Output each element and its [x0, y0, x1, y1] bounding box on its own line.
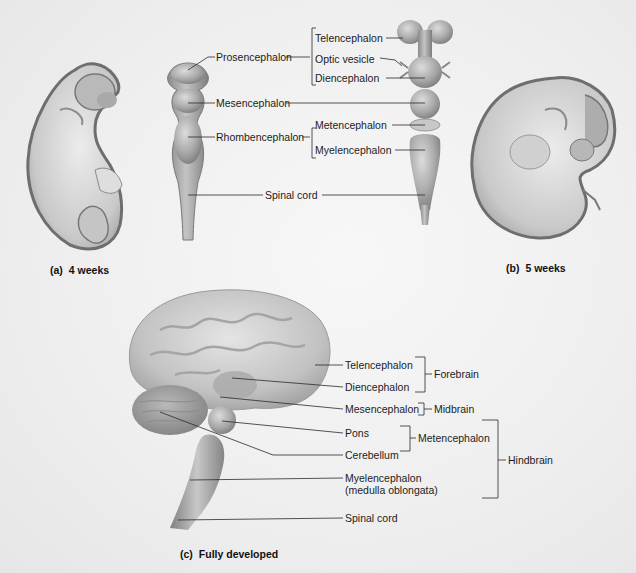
label-diencephalon-5wk: Diencephalon [315, 72, 379, 84]
label-medulla-oblongata: (medulla oblongata) [345, 484, 438, 496]
label-spinal-cord-embryo: Spinal cord [265, 189, 318, 201]
caption-c: (c)Fully developed [180, 548, 278, 560]
label-telencephalon-adult: Telencephalon [345, 359, 413, 371]
embryo-4-weeks [28, 64, 122, 249]
neural-tube-5-weeks [397, 20, 453, 225]
neural-tube-4-weeks [168, 63, 209, 240]
illustration-layer [0, 0, 636, 573]
label-optic-vesicle: Optic vesicle [315, 53, 375, 65]
group-forebrain: Forebrain [434, 368, 479, 380]
label-metencephalon-5wk: Metencephalon [315, 119, 387, 131]
caption-a: (a)4 weeks [50, 264, 109, 276]
label-mesencephalon-4wk: Mesencephalon [216, 97, 290, 109]
label-myelencephalon-5wk: Myelencephalon [315, 144, 391, 156]
label-spinal-cord-adult: Spinal cord [345, 512, 398, 524]
group-metencephalon: Metencephalon [418, 432, 490, 444]
label-myelencephalon-adult: Myelencephalon [345, 472, 421, 484]
label-prosencephalon: Prosencephalon [216, 51, 292, 63]
label-pons: Pons [345, 427, 369, 439]
embryo-5-weeks [472, 78, 615, 238]
caption-b: (b)5 weeks [506, 262, 566, 274]
label-rhombencephalon: Rhombencephalon [216, 131, 304, 143]
label-mesencephalon-adult: Mesencephalon [345, 403, 419, 415]
group-hindbrain: Hindbrain [508, 454, 553, 466]
label-diencephalon-adult: Diencephalon [345, 381, 409, 393]
adult-brain [129, 290, 330, 530]
label-telencephalon-5wk: Telencephalon [315, 32, 383, 44]
brain-development-figure: Prosencephalon Mesencephalon Rhombenceph… [0, 0, 636, 573]
label-cerebellum: Cerebellum [345, 449, 399, 461]
group-midbrain: Midbrain [434, 403, 474, 415]
